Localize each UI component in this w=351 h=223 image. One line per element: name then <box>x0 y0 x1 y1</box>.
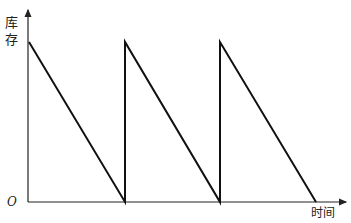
inventory-chart <box>0 0 351 223</box>
x-axis-label: 时间 <box>311 207 335 219</box>
inventory-line <box>29 42 316 202</box>
origin-label: O <box>7 196 17 208</box>
y-axis-label: 库存 <box>5 14 21 48</box>
